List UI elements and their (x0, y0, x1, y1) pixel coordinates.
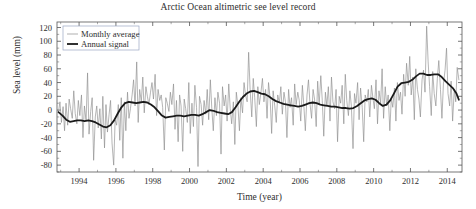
y-tick-label: 60 (44, 64, 53, 74)
chart-figure: Arctic Ocean altimetric see level record… (0, 0, 476, 209)
x-tick-label: 2012 (402, 176, 419, 186)
y-tick-label: -80 (41, 160, 52, 170)
y-tick-label: 0 (48, 105, 52, 115)
chart-legend: Monthly averageAnnual signal (63, 26, 140, 50)
plot-area: -80-60-40-20020406080100120 199419961998… (0, 0, 476, 209)
x-tick-label: 2010 (365, 176, 382, 186)
x-tick-label: 2008 (328, 176, 345, 186)
legend-label: Annual signal (81, 39, 130, 49)
y-tick-label: 80 (44, 50, 53, 60)
y-tick-label: -40 (41, 133, 52, 143)
y-tick-label: 40 (44, 78, 53, 88)
legend-label: Monthly average (81, 29, 140, 39)
x-tick-label: 2006 (292, 176, 309, 186)
y-tick-label: -60 (41, 146, 52, 156)
y-tick-label: 120 (39, 23, 52, 33)
x-tick-label: 2004 (255, 176, 273, 186)
x-tick-label: 2014 (439, 176, 457, 186)
x-tick-label: 2002 (218, 176, 235, 186)
x-tick-label: 1996 (107, 176, 124, 186)
x-tick-label: 1994 (71, 176, 89, 186)
x-tick-label: 1998 (144, 176, 161, 186)
y-tick-label: -20 (41, 119, 52, 129)
x-tick-label: 2000 (181, 176, 198, 186)
y-tick-label: 100 (39, 36, 52, 46)
y-tick-label: 20 (44, 91, 53, 101)
